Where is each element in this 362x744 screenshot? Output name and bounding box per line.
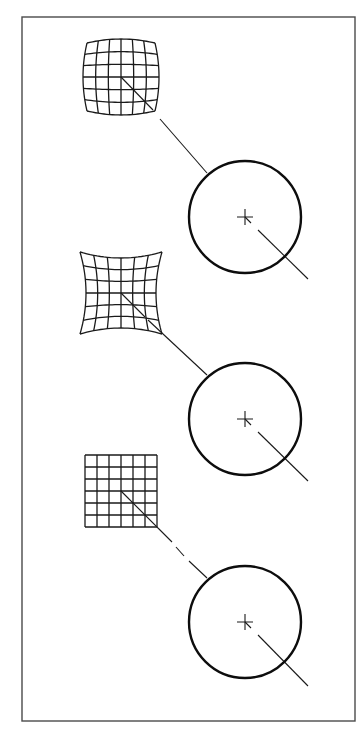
panel-pincushion	[80, 252, 308, 481]
ray-segment	[245, 419, 251, 425]
grid-line-horizontal	[80, 252, 162, 258]
ray-segment	[148, 320, 207, 375]
ray-segment	[258, 230, 308, 279]
ray-segment	[160, 119, 207, 173]
panels	[80, 39, 308, 686]
ray-segment	[245, 622, 251, 628]
ray-segment	[258, 432, 308, 481]
panel-barrel	[83, 39, 308, 279]
ray-segment	[189, 561, 207, 578]
grid-line-vertical	[80, 252, 86, 334]
ray-segment	[121, 491, 172, 542]
ray-segment	[258, 635, 308, 686]
ray-segment	[176, 547, 184, 556]
ray-segment	[245, 217, 251, 223]
grid-line-horizontal	[80, 328, 162, 334]
panel-undistorted	[85, 455, 308, 686]
grid-line-vertical	[156, 252, 162, 334]
ray-segment	[121, 77, 153, 110]
distortion-diagram	[0, 0, 362, 744]
